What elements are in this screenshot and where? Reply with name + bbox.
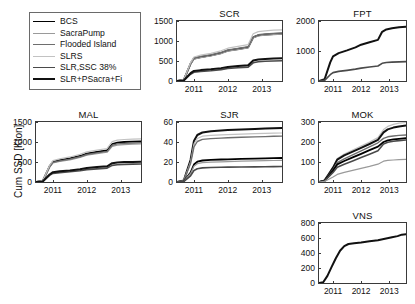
figure-cumulative-ssd: BCSSacraPumpFlooded IslandSLRSSLR,SSC 38… (0, 0, 415, 304)
y-axis-tick-mark (318, 51, 321, 52)
y-axis-tick-mark (318, 81, 321, 82)
y-axis-tick-label: 400 (281, 248, 315, 258)
x-axis-tick-mark (262, 79, 263, 82)
panel-title: SJR (176, 109, 283, 120)
series-line (36, 143, 141, 182)
x-axis-tick-mark (361, 281, 362, 284)
legend-item-label: SacraPump (60, 28, 105, 40)
series-line (177, 128, 282, 182)
series-line (36, 164, 141, 182)
y-axis-tick-label: 800 (281, 218, 315, 228)
x-axis-tick-label: 2012 (352, 286, 371, 296)
legend-item: SacraPump (33, 28, 136, 40)
series-line (177, 30, 282, 81)
x-axis-tick-mark (194, 79, 195, 82)
x-axis-tick-label: 2011 (324, 84, 342, 94)
y-axis-tick-label: 1000 (139, 36, 173, 46)
y-axis-tick-mark (318, 142, 321, 143)
y-axis-tick-mark (176, 81, 179, 82)
y-axis-tick-mark (176, 41, 179, 42)
series-group (319, 223, 406, 283)
legend-line-swatch (33, 56, 55, 57)
series-group (36, 122, 141, 182)
panel-title: SCR (176, 8, 283, 19)
legend-item: SLRS (33, 51, 136, 63)
x-axis-tick-label: 2013 (380, 84, 399, 94)
y-axis-label: Cum SSD [Kton] (13, 125, 24, 198)
series-line (319, 27, 406, 81)
y-axis-tick-label: 20 (139, 157, 173, 167)
y-axis-tick-mark (35, 182, 38, 183)
x-axis-tick-label: 2013 (252, 185, 271, 195)
x-axis-tick-label: 2012 (352, 185, 371, 195)
x-axis-tick-mark (333, 281, 334, 284)
series-group (177, 21, 282, 81)
x-axis-tick-mark (361, 180, 362, 183)
series-line (177, 160, 282, 182)
x-axis-tick-mark (262, 180, 263, 183)
x-axis-tick-label: 2012 (352, 84, 371, 94)
legend-item-label: SLR,SSC 38% (60, 62, 116, 74)
panel-title: MOK (318, 109, 407, 120)
y-axis-tick-mark (35, 162, 38, 163)
y-axis-tick-mark (176, 182, 179, 183)
x-axis-tick-label: 2013 (380, 185, 399, 195)
y-axis-tick-mark (176, 142, 179, 143)
series-line (177, 61, 282, 81)
x-axis-tick-label: 2011 (324, 286, 342, 296)
y-axis-tick-label: 100 (281, 157, 315, 167)
series-line (36, 144, 141, 182)
series-line (177, 58, 282, 81)
x-axis-tick-label: 2013 (252, 84, 271, 94)
y-axis-tick-mark (318, 223, 321, 224)
series-group (319, 21, 406, 81)
y-axis-tick-label: 0 (281, 278, 315, 288)
panel-title: MAL (35, 109, 142, 120)
x-axis-tick-mark (228, 180, 229, 183)
series-line (319, 62, 406, 81)
y-axis-tick-mark (318, 162, 321, 163)
series-line (177, 33, 282, 81)
x-axis-tick-mark (361, 79, 362, 82)
y-axis-tick-label: 0 (139, 177, 173, 187)
x-axis-tick-mark (389, 79, 390, 82)
y-axis-tick-label: 200 (281, 263, 315, 273)
legend-line-swatch (33, 33, 55, 34)
x-axis-tick-label: 2012 (218, 185, 237, 195)
legend-line-swatch (33, 78, 55, 80)
legend-line-swatch (33, 67, 55, 68)
x-axis-tick-label: 2011 (44, 185, 62, 195)
y-axis-tick-mark (176, 61, 179, 62)
y-axis-tick-label: 600 (281, 233, 315, 243)
y-axis-tick-mark (318, 238, 321, 239)
legend-item: BCS (33, 16, 136, 28)
series-line (319, 159, 406, 182)
legend-item-label: SLR+PSacra+Fi (60, 74, 122, 86)
x-axis-tick-mark (53, 180, 54, 183)
y-axis-tick-label: 500 (139, 56, 173, 66)
y-axis-tick-mark (318, 283, 321, 284)
y-axis-tick-label: 2000 (281, 16, 315, 26)
panel-title: FPT (318, 8, 407, 19)
series-line (36, 141, 141, 182)
series-group (319, 122, 406, 182)
y-axis-tick-mark (318, 182, 321, 183)
y-axis-tick-label: 300 (281, 117, 315, 127)
plot-area (318, 20, 407, 82)
y-axis-tick-mark (318, 268, 321, 269)
x-axis-tick-mark (389, 180, 390, 183)
x-axis-tick-label: 2012 (218, 84, 237, 94)
x-axis-tick-mark (333, 180, 334, 183)
y-axis-tick-mark (176, 122, 179, 123)
plot-area (35, 121, 142, 183)
legend-line-swatch (33, 21, 55, 22)
plot-area (176, 121, 283, 183)
series-line (319, 140, 406, 182)
series-line (177, 133, 282, 182)
plot-area (318, 121, 407, 183)
legend-item: Flooded Island (33, 39, 136, 51)
legend-item: SLR,SSC 38% (33, 62, 136, 74)
series-line (36, 162, 141, 182)
x-axis-tick-mark (389, 281, 390, 284)
series-group (177, 122, 282, 182)
